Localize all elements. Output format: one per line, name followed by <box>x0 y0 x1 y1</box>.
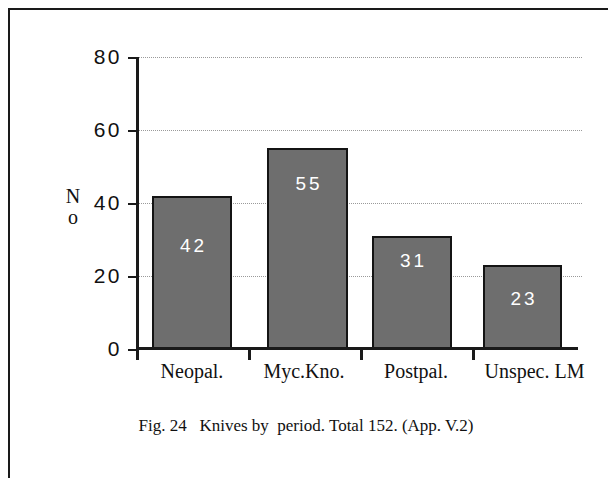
x-label-neopal: Neopal. <box>136 360 248 383</box>
x-axis-line <box>136 347 578 350</box>
bar-unspec-lm: 23 <box>483 265 562 349</box>
y-tick-40 <box>128 203 137 205</box>
y-tick-label-80: 80 <box>64 46 122 67</box>
y-tick-label-0: 0 <box>64 338 122 359</box>
x-tick-3 <box>472 349 475 360</box>
x-tick-1 <box>248 349 251 360</box>
bar-myc-kno: 55 <box>267 148 348 349</box>
x-label-postpal: Postpal. <box>360 360 472 383</box>
y-tick-60 <box>128 130 137 132</box>
x-label-myc-kno: Myc.Kno. <box>248 360 360 383</box>
y-axis-title: No <box>60 186 86 228</box>
gridline-80 <box>136 57 582 58</box>
x-tick-2 <box>360 349 363 360</box>
y-tick-label-20: 20 <box>64 265 122 286</box>
figure-bar-chart: 80 60 40 20 0 No 42 55 31 23 Neopal. Myc… <box>0 0 612 480</box>
x-label-unspec-lm: Unspec. LM <box>472 360 597 383</box>
y-tick-80 <box>128 57 137 59</box>
bar-value-unspec-lm: 23 <box>485 289 560 308</box>
bar-value-postpal: 31 <box>374 251 450 270</box>
x-tick-0 <box>136 349 139 360</box>
bar-value-neopal: 42 <box>154 236 230 255</box>
bar-value-myc-kno: 55 <box>269 174 346 193</box>
y-tick-label-60: 60 <box>64 119 122 140</box>
bar-postpal: 31 <box>372 236 452 349</box>
figure-caption: Fig. 24 Knives by period. Total 152. (Ap… <box>0 416 612 436</box>
y-axis-title-text: No <box>60 186 86 228</box>
gridline-60 <box>136 130 582 131</box>
bar-neopal: 42 <box>152 196 232 349</box>
y-tick-20 <box>128 276 137 278</box>
